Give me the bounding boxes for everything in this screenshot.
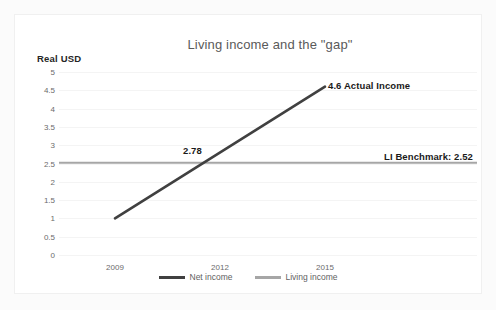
y-axis-tick: 0.5: [21, 232, 55, 241]
chart-screenshot: Living income and the "gap" Real USD 54.…: [0, 0, 496, 310]
legend-swatch-icon: [159, 276, 185, 279]
y-axis-tick: 4: [21, 104, 55, 113]
y-axis-tick: 1: [21, 214, 55, 223]
legend-item[interactable]: Net income: [159, 272, 233, 282]
y-axis-tick: 2: [21, 177, 55, 186]
y-axis-tick: 3: [21, 141, 55, 150]
x-axis-tick: 2012: [211, 263, 229, 272]
legend-swatch-icon: [255, 276, 281, 279]
series-plot: [59, 72, 477, 255]
legend-item[interactable]: Living income: [255, 272, 338, 282]
legend-label: Living income: [286, 272, 338, 282]
net-income-line: [115, 87, 325, 219]
y-axis-tick: 3.5: [21, 122, 55, 131]
y-axis-tick: 1.5: [21, 196, 55, 205]
x-axis-tick: 2009: [106, 263, 124, 272]
chart-title: Living income and the "gap": [75, 37, 465, 52]
y-axis-tick: 4.5: [21, 86, 55, 95]
y-axis-label: Real USD: [37, 53, 81, 64]
x-axis-tick: 2015: [316, 263, 334, 272]
annotation-li-benchmark: LI Benchmark: 2.52: [384, 151, 473, 162]
annotation-actual-income: 4.6 Actual Income: [328, 80, 410, 91]
gridline: [59, 255, 477, 256]
annotation-crossing-value: 2.78: [183, 145, 202, 156]
plot-area: [59, 72, 477, 255]
y-axis-tick: 0: [21, 251, 55, 260]
y-axis-tick: 5: [21, 68, 55, 77]
chart-card: Living income and the "gap" Real USD 54.…: [14, 14, 482, 294]
chart-legend: Net incomeLiving income: [0, 272, 496, 282]
y-axis-tick-labels: 54.543.532.521.510.50: [15, 72, 55, 255]
y-axis-tick: 2.5: [21, 159, 55, 168]
legend-label: Net income: [190, 272, 233, 282]
